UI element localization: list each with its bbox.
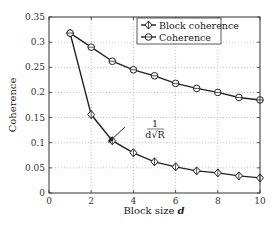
circle-marker-icon <box>109 58 116 65</box>
circle-marker-icon <box>193 85 200 92</box>
circle-marker-icon <box>236 94 243 101</box>
coherence-chart: 0246810 00.050.10.150.20.250.30.35 Block… <box>0 0 278 228</box>
diamond-marker-icon <box>235 172 242 180</box>
annotation-inverse-d-sqrt-r: 1 d√R <box>108 118 165 143</box>
x-axis-label: Block size d <box>123 205 184 216</box>
y-tick-label: 0 <box>39 188 45 198</box>
diamond-marker-icon <box>151 158 158 166</box>
circle-marker-icon <box>215 89 222 96</box>
y-tick-label: 0.3 <box>31 37 46 47</box>
circle-marker-icon <box>130 67 137 74</box>
annotation-denominator: d√R <box>145 129 165 140</box>
y-tick-label: 0.25 <box>25 62 45 72</box>
x-tick-label: 0 <box>46 196 52 206</box>
x-tick-label: 10 <box>254 196 266 206</box>
diamond-marker-icon <box>130 149 137 157</box>
circle-marker-icon <box>88 44 95 51</box>
x-tick-label: 8 <box>215 196 221 206</box>
x-axis-ticks: 0246810 <box>46 17 266 206</box>
annotation-numerator: 1 <box>152 118 158 129</box>
y-tick-label: 0.2 <box>31 87 45 97</box>
circle-marker-icon <box>67 30 74 37</box>
circle-marker-icon <box>151 73 158 80</box>
svg-text:Coherence: Coherence <box>159 32 211 43</box>
series-block-coherence <box>67 29 264 182</box>
circle-marker-icon <box>145 34 152 41</box>
legend: Block coherence Coherence <box>137 18 239 44</box>
diamond-marker-icon <box>172 163 179 171</box>
y-tick-label: 0.35 <box>25 12 45 22</box>
svg-text:Block coherence: Block coherence <box>159 20 239 31</box>
y-tick-label: 0.05 <box>25 163 45 173</box>
diamond-marker-icon <box>214 169 221 177</box>
y-axis-label: Coherence <box>7 78 18 133</box>
circle-marker-icon <box>172 80 179 87</box>
x-tick-label: 2 <box>88 196 94 206</box>
y-tick-label: 0.1 <box>31 138 45 148</box>
y-tick-label: 0.15 <box>25 113 45 123</box>
series-layer <box>67 29 264 182</box>
